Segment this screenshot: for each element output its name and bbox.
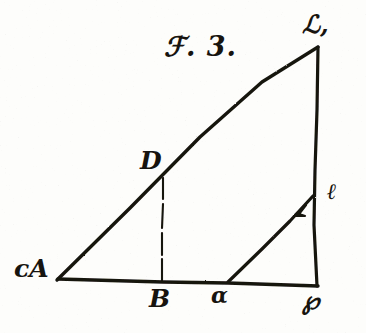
vertex-label-a: ɑ xyxy=(211,284,228,306)
vertex-label-B: B xyxy=(149,286,170,311)
vertex-label-l: ℓ xyxy=(327,180,336,202)
vertex-label-P: ℘ xyxy=(302,288,319,313)
vertex-label-L: ℒ, xyxy=(302,12,329,37)
vertex-label-D: D xyxy=(140,148,162,173)
figure-canvas: ℱ. 3. ᴄA B D ℒ, ℓ ɑ ℘ xyxy=(0,0,366,333)
figure-title: ℱ. 3. xyxy=(164,33,237,60)
vertex-label-A: ᴄA xyxy=(14,256,49,281)
